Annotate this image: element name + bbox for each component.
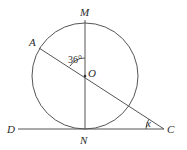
- label-c: C: [167, 123, 175, 135]
- center-dot-o: [84, 75, 87, 78]
- angle-label-36: 36°: [68, 54, 82, 65]
- label-n: N: [79, 134, 88, 146]
- geometry-diagram: M A O D N C 36° x: [0, 0, 187, 150]
- angle-label-x: x: [145, 117, 151, 129]
- label-m: M: [79, 6, 90, 18]
- label-o: O: [88, 67, 96, 79]
- label-d: D: [6, 123, 15, 135]
- label-a: A: [28, 36, 36, 48]
